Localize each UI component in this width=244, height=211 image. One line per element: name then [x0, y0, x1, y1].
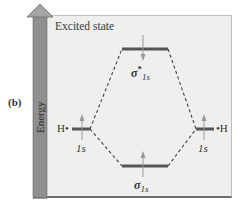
orbital-label-1s-right: 1s	[198, 142, 208, 154]
atom-label-h-left: H•	[57, 122, 69, 134]
electron-up-arrow-icon	[80, 114, 85, 140]
orbital-label-1s-left: 1s	[76, 142, 86, 154]
electron-up-arrow-icon	[202, 114, 207, 140]
diagram-graphics: Energy	[0, 0, 244, 211]
orbital-label-sigma-1s: σ1s	[134, 178, 148, 194]
atom-label-h-right: •H	[216, 122, 228, 134]
energy-axis-label: Energy	[34, 101, 46, 133]
orbital-label-sigma-star-1s: σ*1s	[131, 64, 150, 82]
energy-axis-arrow	[27, 4, 53, 198]
electron-up-arrow-icon	[141, 151, 146, 177]
